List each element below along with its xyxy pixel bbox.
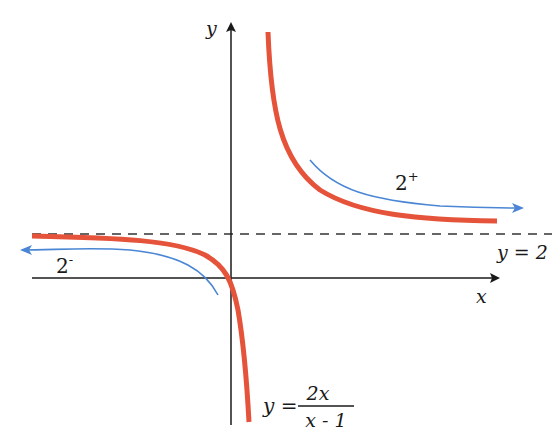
x-axis-label: x — [476, 285, 487, 307]
svg-text:y =: y = — [262, 394, 297, 418]
asymptote-label: y = 2 — [496, 241, 548, 263]
svg-text:2x: 2x — [306, 382, 330, 404]
limit-label-right: 2+ — [395, 169, 419, 195]
function-equation: y = 2x x - 1 — [262, 382, 354, 431]
y-axis-label: y — [205, 17, 217, 39]
curve-right-branch — [268, 32, 497, 221]
approach-arrow-left — [22, 249, 218, 295]
limit-label-left: 2- — [56, 252, 73, 278]
svg-text:x - 1: x - 1 — [305, 409, 346, 431]
graph-canvas: y x y = 2 2+ 2- y = 2x x - 1 — [0, 0, 552, 446]
